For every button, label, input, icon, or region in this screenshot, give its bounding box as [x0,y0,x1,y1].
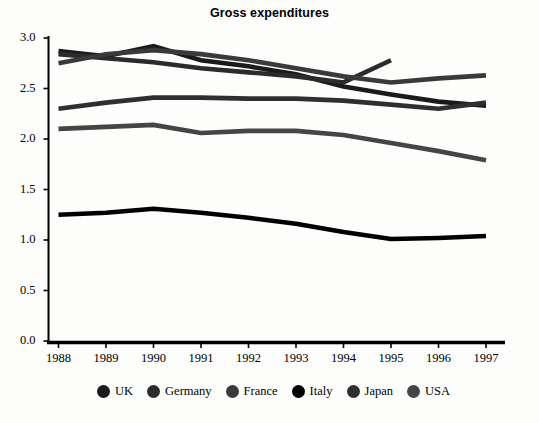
legend-swatch-icon [147,385,160,398]
legend-swatch-icon [97,385,110,398]
axes [47,36,505,343]
y-axis-tick-label: 2.5 [6,82,36,94]
chart-legend: UKGermanyFranceItalyJapanUSA [0,384,539,399]
legend-swatch-icon [226,385,239,398]
y-axis-tick-label: 1.0 [6,233,36,245]
legend-label: Germany [165,384,212,399]
series-line-usa [59,125,487,160]
x-axis-tick-label: 1996 [416,352,462,365]
legend-swatch-icon [407,385,420,398]
legend-item-usa[interactable]: USA [407,384,450,399]
legend-label: France [244,384,278,399]
x-axis-tick-label: 1994 [321,352,367,365]
legend-swatch-icon [347,385,360,398]
x-axis-tick-label: 1990 [131,352,177,365]
x-axis-tick-label: 1997 [463,352,509,365]
x-axis-tick-label: 1989 [83,352,129,365]
legend-label: UK [115,384,133,399]
x-axis-tick-label: 1988 [36,352,82,365]
y-axis-tick-label: 1.5 [6,183,36,195]
x-axis-tick-label: 1991 [178,352,224,365]
y-axis-tick-label: 0.0 [6,334,36,346]
legend-item-germany[interactable]: Germany [147,384,212,399]
series-line-france [59,50,487,82]
plot-area: 0.00.51.01.52.02.53.0 198819891990199119… [0,0,539,375]
data-series-group [59,46,487,239]
gross-expenditures-chart: Gross expenditures 0.00.51.01.52.02.53.0… [0,0,539,423]
legend-swatch-icon [292,385,305,398]
x-axis-tick-label: 1992 [226,352,272,365]
legend-label: USA [425,384,450,399]
legend-label: Japan [365,384,393,399]
x-axis-tick-label: 1993 [273,352,319,365]
legend-label: Italy [310,384,333,399]
legend-item-uk[interactable]: UK [97,384,133,399]
plot-svg [0,0,539,375]
x-axis-tick-label: 1995 [368,352,414,365]
legend-item-japan[interactable]: Japan [347,384,393,399]
y-axis-tick-label: 2.0 [6,132,36,144]
legend-item-france[interactable]: France [226,384,278,399]
y-axis-tick-label: 0.5 [6,284,36,296]
y-axis-tick-label: 3.0 [6,31,36,43]
series-line-italy [59,209,487,239]
legend-item-italy[interactable]: Italy [292,384,333,399]
